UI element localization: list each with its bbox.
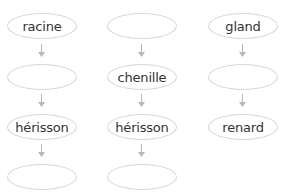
node-label: renard (222, 120, 263, 135)
node-col1-row3: hérisson (7, 114, 77, 140)
node-col2-row4[interactable] (107, 164, 177, 190)
node-col2-row3: hérisson (107, 114, 177, 140)
node-col2-row2: chenille (107, 64, 177, 90)
arrow-down-icon (137, 144, 146, 158)
arrow-down-icon (37, 144, 46, 158)
arrow-down-icon (37, 44, 46, 58)
node-label: gland (225, 19, 260, 34)
node-col3-row3: renard (208, 114, 278, 140)
node-label: hérisson (115, 120, 168, 135)
node-col1-row4[interactable] (7, 164, 77, 190)
arrow-down-icon (238, 44, 247, 58)
node-col3-row2[interactable] (208, 64, 278, 90)
node-col1-row1: racine (7, 13, 77, 39)
node-col2-row1[interactable] (107, 13, 177, 39)
arrow-down-icon (137, 44, 146, 58)
node-label: hérisson (15, 120, 68, 135)
arrow-down-icon (238, 94, 247, 108)
node-col1-row2[interactable] (7, 64, 77, 90)
arrow-down-icon (37, 94, 46, 108)
node-col3-row1: gland (208, 13, 278, 39)
node-label: racine (22, 19, 61, 34)
arrow-down-icon (137, 94, 146, 108)
node-label: chenille (118, 70, 167, 85)
